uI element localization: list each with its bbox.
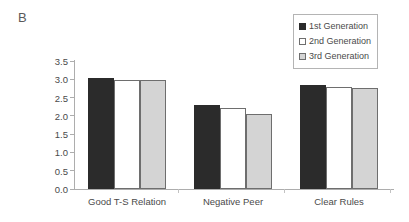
legend-swatch-3rd-generation <box>299 53 306 60</box>
x-axis-category-label: Good T-S Relation <box>88 196 166 207</box>
bar[interactable] <box>88 78 114 189</box>
y-axis-tick-mark <box>70 79 74 80</box>
legend-label-2nd-generation: 2nd Generation <box>309 37 371 46</box>
bar[interactable] <box>140 80 166 189</box>
plot-area: 3.53.02.52.01.51.00.50.0 <box>74 61 392 189</box>
y-axis-tick-mark <box>70 189 74 190</box>
y-axis-tick-label: 1.5 <box>55 129 68 140</box>
x-axis-category-label: Clear Rules <box>314 196 364 207</box>
x-axis-tick-mark <box>390 189 391 193</box>
y-axis-tick-mark <box>70 152 74 153</box>
y-axis-tick-label: 2.0 <box>55 110 68 121</box>
bar[interactable] <box>326 87 352 189</box>
legend-item-2nd-generation: 2nd Generation <box>299 34 371 49</box>
x-axis-tick-mark <box>284 189 285 193</box>
y-axis-tick-label: 1.0 <box>55 147 68 158</box>
legend-label-3rd-generation: 3rd Generation <box>309 52 369 61</box>
bar[interactable] <box>300 85 326 189</box>
y-axis-tick-mark <box>70 170 74 171</box>
y-axis-tick-label: 0.0 <box>55 184 68 195</box>
bar[interactable] <box>220 108 246 189</box>
y-axis-tick-label: 3.5 <box>55 56 68 67</box>
bar-group <box>88 61 166 189</box>
legend-swatch-2nd-generation <box>299 38 306 45</box>
legend-item-1st-generation: 1st Generation <box>299 19 371 34</box>
bar-group <box>194 61 272 189</box>
bar-group <box>300 61 378 189</box>
bar[interactable] <box>194 105 220 189</box>
y-axis-tick-mark <box>70 97 74 98</box>
bar[interactable] <box>246 114 272 189</box>
x-axis-line <box>74 189 394 190</box>
page-title: B <box>18 10 27 25</box>
y-axis-tick-label: 2.5 <box>55 92 68 103</box>
legend-swatch-1st-generation <box>299 23 306 30</box>
legend-label-1st-generation: 1st Generation <box>309 22 368 31</box>
y-axis-tick-mark <box>70 115 74 116</box>
figure-panel-b: B 1st Generation 2nd Generation 3rd Gene… <box>0 0 409 222</box>
bar[interactable] <box>352 88 378 189</box>
x-axis-tick-mark <box>178 189 179 193</box>
y-axis-tick-mark <box>70 134 74 135</box>
y-axis-tick-mark <box>70 61 74 62</box>
y-axis-tick-label: 3.0 <box>55 74 68 85</box>
y-axis-tick-label: 0.5 <box>55 165 68 176</box>
bar[interactable] <box>114 80 140 189</box>
x-axis-category-label: Negative Peer <box>203 196 263 207</box>
